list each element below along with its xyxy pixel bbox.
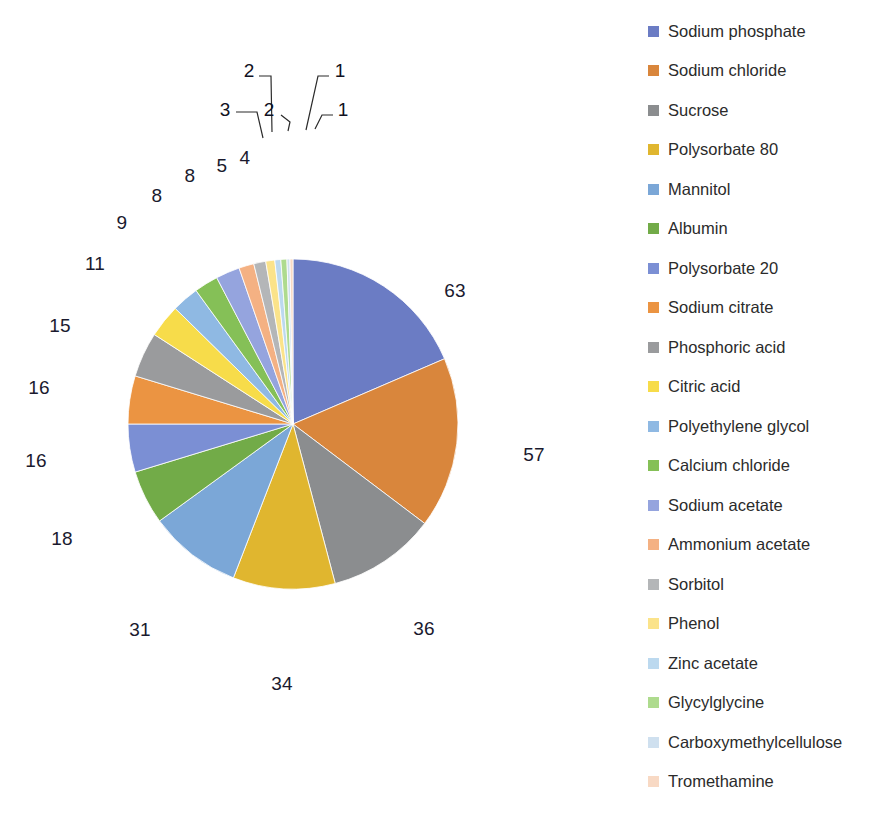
legend-swatch-icon — [648, 381, 659, 392]
callout-leader-line — [306, 76, 329, 130]
callout-leader-line — [281, 115, 290, 131]
legend-item-label: Ammonium acetate — [668, 536, 810, 553]
pie-chart-svg — [0, 0, 625, 820]
legend-item[interactable]: Mannitol — [640, 178, 730, 200]
slice-value-label: 57 — [523, 444, 545, 466]
legend-item-label: Sodium citrate — [668, 299, 773, 316]
pie-chart-figure: 6357363431181616151198854 32211 Sodium p… — [0, 0, 893, 820]
legend-item-label: Carboxymethylcellulose — [668, 734, 842, 751]
legend-item-label: Sodium acetate — [668, 497, 783, 514]
legend-item-label: Polysorbate 80 — [668, 141, 778, 158]
legend-item[interactable]: Glycylglycine — [640, 692, 764, 714]
legend-item-label: Tromethamine — [668, 773, 774, 790]
slice-value-label: 16 — [25, 450, 47, 472]
legend-item-label: Sucrose — [668, 102, 729, 119]
legend-swatch-icon — [648, 302, 659, 313]
slice-callout-value-label: 2 — [244, 60, 255, 82]
slice-callout-value-label: 1 — [338, 99, 349, 121]
legend-swatch-icon — [648, 658, 659, 669]
slice-value-label: 63 — [444, 280, 466, 302]
callout-leader-lines-group — [236, 76, 333, 138]
slice-value-label: 16 — [28, 377, 50, 399]
legend-item-label: Zinc acetate — [668, 655, 758, 672]
legend-item-label: Sodium phosphate — [668, 23, 806, 40]
legend-item[interactable]: Carboxymethylcellulose — [640, 731, 842, 753]
slice-value-label: 18 — [51, 528, 73, 550]
chart-legend: Sodium phosphateSodium chlorideSucrosePo… — [640, 0, 893, 820]
legend-swatch-icon — [648, 144, 659, 155]
legend-swatch-icon — [648, 184, 659, 195]
slice-value-label: 9 — [117, 212, 128, 234]
legend-swatch-icon — [648, 342, 659, 353]
callout-leader-line — [315, 115, 333, 129]
pie-chart-plot-area: 6357363431181616151198854 32211 — [0, 0, 625, 820]
legend-item[interactable]: Tromethamine — [640, 771, 774, 793]
slice-value-label: 5 — [217, 155, 228, 177]
slice-value-label: 31 — [129, 619, 151, 641]
slice-callout-value-label: 2 — [264, 99, 275, 121]
legend-swatch-icon — [648, 500, 659, 511]
legend-item[interactable]: Polyethylene glycol — [640, 415, 809, 437]
legend-swatch-icon — [648, 26, 659, 37]
legend-item[interactable]: Phenol — [640, 613, 719, 635]
legend-swatch-icon — [648, 579, 659, 590]
legend-item-label: Phenol — [668, 615, 719, 632]
slice-value-label: 34 — [271, 673, 293, 695]
legend-item[interactable]: Sucrose — [640, 99, 729, 121]
legend-item[interactable]: Polysorbate 20 — [640, 257, 778, 279]
legend-item[interactable]: Sodium chloride — [640, 60, 786, 82]
legend-swatch-icon — [648, 263, 659, 274]
legend-item[interactable]: Sodium citrate — [640, 297, 773, 319]
legend-item-label: Polysorbate 20 — [668, 260, 778, 277]
legend-item-label: Polyethylene glycol — [668, 418, 809, 435]
legend-item[interactable]: Citric acid — [640, 376, 740, 398]
legend-swatch-icon — [648, 697, 659, 708]
legend-item[interactable]: Calcium chloride — [640, 455, 790, 477]
slice-value-label: 15 — [49, 315, 71, 337]
slice-value-label: 8 — [152, 185, 163, 207]
slice-callout-value-label: 1 — [335, 60, 346, 82]
legend-swatch-icon — [648, 460, 659, 471]
legend-swatch-icon — [648, 105, 659, 116]
legend-item-label: Calcium chloride — [668, 457, 790, 474]
legend-item-label: Sodium chloride — [668, 62, 786, 79]
legend-item[interactable]: Polysorbate 80 — [640, 139, 778, 161]
legend-swatch-icon — [648, 65, 659, 76]
legend-swatch-icon — [648, 421, 659, 432]
legend-item[interactable]: Sorbitol — [640, 573, 724, 595]
legend-item-label: Albumin — [668, 220, 728, 237]
legend-swatch-icon — [648, 618, 659, 629]
slice-value-label: 4 — [240, 147, 251, 169]
slice-callout-value-label: 3 — [220, 99, 231, 121]
legend-item[interactable]: Sodium phosphate — [640, 20, 806, 42]
legend-swatch-icon — [648, 737, 659, 748]
legend-swatch-icon — [648, 223, 659, 234]
pie-slices-group — [128, 259, 458, 589]
legend-item[interactable]: Phosphoric acid — [640, 336, 785, 358]
slice-value-label: 11 — [85, 253, 105, 275]
legend-swatch-icon — [648, 776, 659, 787]
callout-leader-line — [236, 112, 263, 138]
legend-swatch-icon — [648, 539, 659, 550]
legend-item-label: Citric acid — [668, 378, 740, 395]
legend-item-label: Phosphoric acid — [668, 339, 785, 356]
legend-item[interactable]: Sodium acetate — [640, 494, 783, 516]
legend-item-label: Glycylglycine — [668, 694, 764, 711]
slice-value-label: 36 — [413, 618, 435, 640]
legend-item[interactable]: Albumin — [640, 218, 728, 240]
slice-value-label: 8 — [185, 165, 196, 187]
legend-item[interactable]: Ammonium acetate — [640, 534, 810, 556]
legend-item-label: Mannitol — [668, 181, 730, 198]
legend-item[interactable]: Zinc acetate — [640, 652, 758, 674]
legend-item-label: Sorbitol — [668, 576, 724, 593]
